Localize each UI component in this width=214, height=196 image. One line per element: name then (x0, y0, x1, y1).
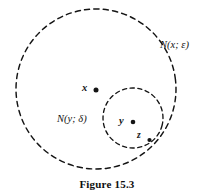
point-z-label: z (137, 131, 141, 141)
point-x-label: x (82, 83, 87, 94)
outer-neighborhood-label: N(x; ε) (160, 40, 189, 51)
inner-neighborhood-label: N(y; δ) (57, 114, 87, 125)
point-y-dot (131, 120, 136, 125)
point-y-label: y (119, 116, 124, 127)
neighborhood-diagram (0, 0, 214, 196)
point-z-dot (147, 138, 151, 142)
figure-container: N(x; ε) N(y; δ) x y z Figure 15.3 (0, 0, 214, 196)
inner-neighborhood-circle (97, 82, 170, 155)
point-x-dot (94, 88, 99, 93)
figure-caption: Figure 15.3 (0, 178, 214, 190)
